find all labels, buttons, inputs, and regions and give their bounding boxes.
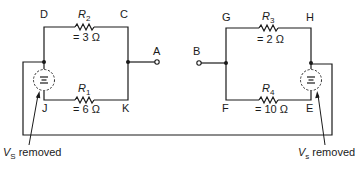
terminal-b[interactable]: [197, 61, 201, 65]
label-g: G: [222, 11, 231, 23]
right-loop: [201, 28, 311, 100]
label-r2: R2: [78, 8, 91, 23]
voltage-source-left-icon: [34, 70, 55, 91]
label-r4: R4: [262, 82, 275, 97]
label-c: C: [120, 8, 128, 20]
label-b: B: [193, 45, 200, 57]
circuit-diagram: D C A B G H J K F E R2 = 3 Ω R1 = 6 Ω R3…: [0, 0, 355, 169]
resistor-r3: [259, 25, 278, 31]
label-h: H: [306, 11, 314, 23]
caption-vs-left: VSremoved: [3, 146, 61, 161]
arrow-left-icon: [29, 91, 40, 145]
value-r3: = 2 Ω: [257, 33, 284, 45]
value-r4: = 10 Ω: [255, 103, 288, 115]
voltage-source-right-icon: [301, 70, 322, 91]
label-d: D: [40, 8, 48, 20]
node-dot-left-c: [126, 60, 130, 64]
label-e: E: [306, 102, 313, 114]
label-a: A: [153, 45, 161, 57]
value-r1: = 6 Ω: [73, 103, 100, 115]
value-r2: = 3 Ω: [73, 31, 100, 43]
label-r1: R1: [78, 82, 91, 97]
arrow-right-icon: [315, 91, 325, 145]
node-dot-right-g: [224, 61, 228, 65]
resistor-r2: [75, 24, 94, 30]
label-r3: R3: [262, 10, 275, 25]
label-j: J: [42, 102, 48, 114]
label-f: F: [222, 102, 229, 114]
caption-vs-right: Vsremoved: [298, 146, 355, 161]
outer-return-wire: [23, 62, 332, 135]
label-k: K: [122, 102, 130, 114]
terminal-a[interactable]: [155, 60, 159, 64]
